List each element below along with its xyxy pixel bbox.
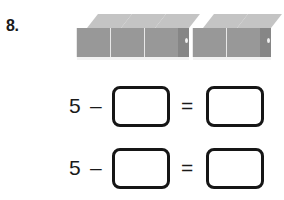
cube-edge [144, 28, 145, 57]
cube-shadow [227, 57, 271, 60]
unit-cube-icon [226, 14, 272, 62]
problem-number: 8. [6, 17, 19, 35]
unit-cube-icon [144, 14, 190, 62]
cube-front-face [192, 28, 226, 57]
equals-sign-icon: = [181, 94, 193, 118]
minuend-1: 5 [69, 94, 81, 118]
cube-front-face [144, 28, 178, 57]
cube-front-face [110, 28, 144, 57]
cube-dot [185, 38, 188, 43]
cube-edge [110, 28, 111, 57]
cube-edge [226, 28, 227, 57]
equals-sign-icon: = [181, 156, 193, 180]
cube-dot [267, 38, 270, 43]
minuend-2: 5 [69, 156, 81, 180]
worksheet-problem: 8. [0, 0, 284, 200]
cube-top-face [237, 14, 282, 28]
equation-row-2: 5 – = [0, 146, 284, 194]
minus-sign-icon: – [90, 156, 102, 180]
subtrahend-input-1[interactable] [112, 86, 170, 127]
difference-input-2[interactable] [206, 148, 264, 189]
cube-shadow [145, 57, 189, 60]
subtrahend-input-2[interactable] [112, 148, 170, 189]
difference-input-1[interactable] [206, 86, 264, 127]
cube-front-face [76, 28, 110, 57]
cube-front-face [226, 28, 260, 57]
minus-sign-icon: – [90, 94, 102, 118]
equation-row-1: 5 – = [0, 84, 284, 132]
cube-edge [76, 28, 77, 57]
cube-edge [192, 28, 193, 57]
